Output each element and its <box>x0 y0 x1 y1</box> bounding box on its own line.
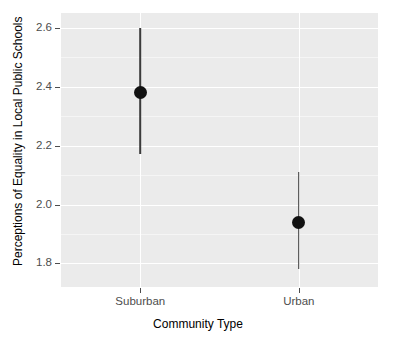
y-tick-mark <box>55 263 60 264</box>
y-tick-mark <box>55 205 60 206</box>
plot-panel <box>61 13 378 287</box>
y-tick-label-2-4: 2.4 <box>0 81 52 93</box>
y-tick-label-2-2: 2.2 <box>0 140 52 152</box>
gridline-major <box>61 87 378 88</box>
y-tick-label-2-0: 2.0 <box>0 199 52 211</box>
gridline-minor <box>61 116 378 117</box>
gridline-minor <box>61 175 378 176</box>
gridline-major <box>61 146 378 147</box>
x-tick-mark <box>299 288 300 293</box>
gridline-minor <box>61 234 378 235</box>
point-urban <box>292 216 305 229</box>
chart-plot: 2.6 2.4 2.2 2.0 1.8 Suburban Urban Commu… <box>0 0 396 342</box>
point-suburban <box>134 86 147 99</box>
y-tick-label-1-8: 1.8 <box>0 258 52 270</box>
y-tick-mark <box>55 146 60 147</box>
gridline-major <box>61 263 378 264</box>
gridline-major <box>61 28 378 29</box>
x-tick-label-suburban: Suburban <box>115 296 165 308</box>
gridline-minor <box>61 57 378 58</box>
y-tick-mark <box>55 87 60 88</box>
x-axis-title: Community Type <box>0 318 396 330</box>
y-tick-label-2-6: 2.6 <box>0 22 52 34</box>
y-tick-mark <box>55 28 60 29</box>
gridline-major <box>61 205 378 206</box>
x-tick-mark <box>140 288 141 293</box>
y-axis-title: Perceptions of Equality in Local Public … <box>12 46 24 266</box>
x-tick-label-urban: Urban <box>283 296 314 308</box>
